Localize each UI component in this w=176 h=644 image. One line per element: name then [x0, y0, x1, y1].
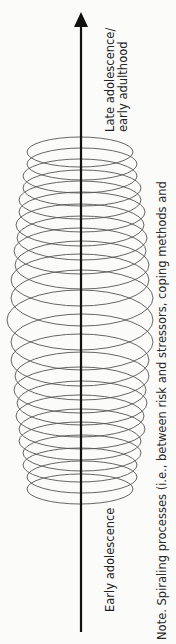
spiral-diagram [0, 0, 176, 644]
arrow-head-icon [74, 12, 88, 27]
end-label: Late adolescence/ early adulthood [104, 28, 130, 132]
start-label: Early adolescence [104, 508, 117, 612]
end-label-line2: early adulthood [117, 28, 130, 132]
figure-note: Note. Spiraling processes (i.e., between… [156, 181, 169, 640]
